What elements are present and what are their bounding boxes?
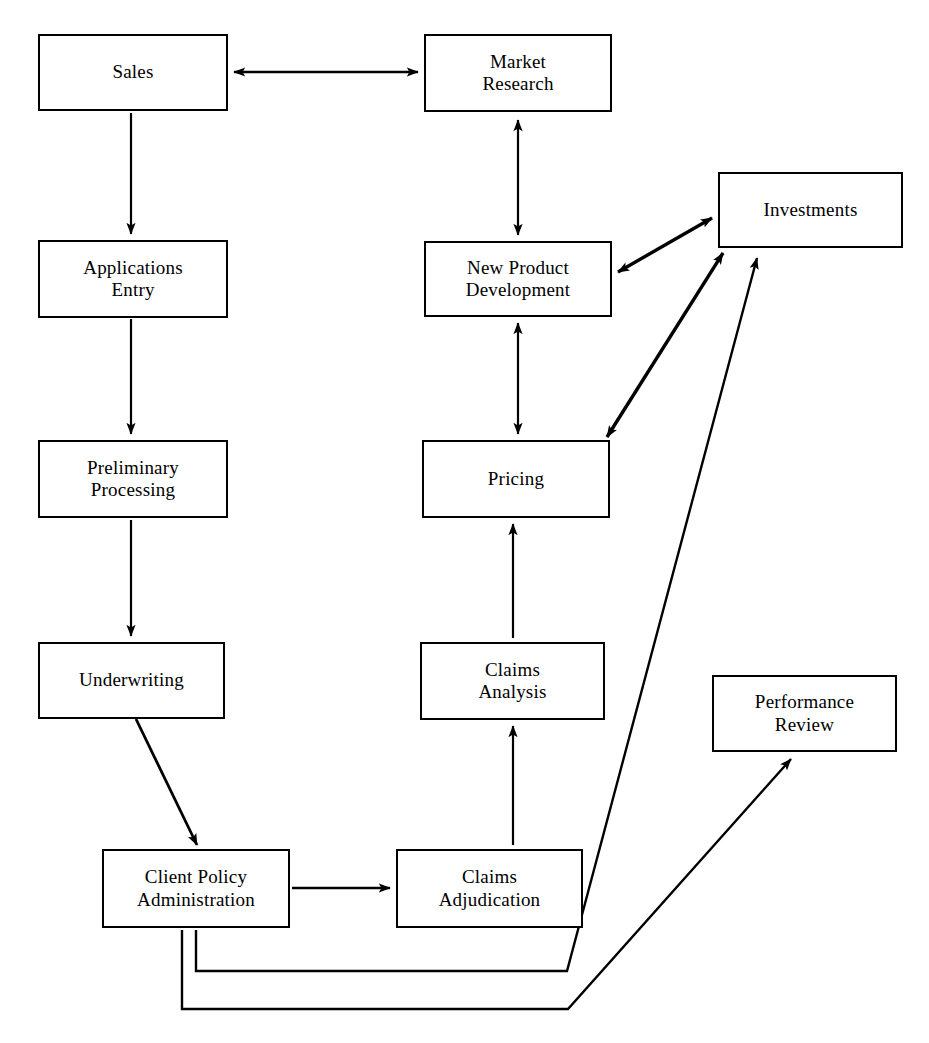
- node-label-underwriting: Underwriting: [75, 669, 188, 691]
- node-label-preliminary-processing: Preliminary Processing: [83, 457, 183, 502]
- edge-pricing-investments: [607, 253, 723, 437]
- flowchart-canvas: Sales Market Research Investments Applic…: [0, 0, 929, 1043]
- node-investments[interactable]: Investments: [718, 172, 903, 248]
- node-label-client-policy-administration: Client Policy Administration: [133, 866, 259, 911]
- node-label-market-research: Market Research: [478, 51, 557, 96]
- node-preliminary-processing[interactable]: Preliminary Processing: [38, 440, 228, 518]
- node-label-new-product-development: New Product Development: [462, 257, 575, 302]
- node-sales[interactable]: Sales: [38, 34, 228, 111]
- node-underwriting[interactable]: Underwriting: [38, 642, 225, 719]
- node-claims-analysis[interactable]: Claims Analysis: [420, 642, 605, 720]
- node-performance-review[interactable]: Performance Review: [712, 675, 897, 752]
- node-label-claims-analysis: Claims Analysis: [474, 659, 550, 704]
- node-new-product-development[interactable]: New Product Development: [424, 241, 612, 317]
- node-label-performance-review: Performance Review: [751, 691, 858, 736]
- edge-new-product-development-investments: [618, 218, 712, 272]
- node-claims-adjudication[interactable]: Claims Adjudication: [396, 849, 583, 928]
- node-market-research[interactable]: Market Research: [424, 34, 612, 112]
- node-label-pricing: Pricing: [484, 468, 548, 490]
- node-label-sales: Sales: [108, 61, 157, 83]
- node-client-policy-administration[interactable]: Client Policy Administration: [102, 849, 290, 928]
- node-label-investments: Investments: [759, 199, 861, 221]
- edge-underwriting-client-policy-administration: [136, 719, 197, 845]
- node-applications-entry[interactable]: Applications Entry: [38, 240, 228, 318]
- node-label-applications-entry: Applications Entry: [79, 257, 187, 302]
- node-label-claims-adjudication: Claims Adjudication: [435, 866, 545, 911]
- node-pricing[interactable]: Pricing: [422, 440, 610, 518]
